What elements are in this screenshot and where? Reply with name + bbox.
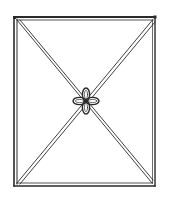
frame-drawing (0, 0, 170, 204)
